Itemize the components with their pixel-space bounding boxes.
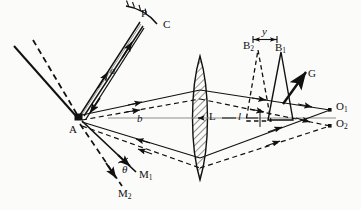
beam-splitter-b1 bbox=[268, 52, 293, 120]
rays-to-m1 bbox=[82, 121, 136, 172]
source-point-a bbox=[75, 114, 83, 121]
label-mirror-m2: M2 bbox=[118, 188, 132, 200]
label-splitter-b2: B2 bbox=[243, 40, 254, 52]
label-source-a: A bbox=[69, 124, 77, 135]
label-distance-l: l bbox=[238, 111, 241, 122]
label-mirror-m1: M1 bbox=[139, 169, 153, 181]
label-splitter-b1: B1 bbox=[275, 42, 286, 54]
label-image-o2: O2 bbox=[336, 118, 348, 130]
label-distance-a: a bbox=[110, 65, 116, 76]
label-separation-y: y bbox=[262, 26, 267, 37]
label-mirror-point-p: P bbox=[141, 8, 147, 19]
separation-y-bracket bbox=[253, 36, 277, 43]
figure-canvas: P C a b A L l B1 B2 y G O1 O2 M1 M2 θ bbox=[0, 0, 361, 210]
label-distance-b: b bbox=[137, 113, 143, 124]
image-point-o1 bbox=[328, 108, 332, 112]
incoming-rays bbox=[14, 40, 78, 116]
label-angle-theta: θ bbox=[122, 164, 127, 175]
label-image-o1: O1 bbox=[336, 101, 348, 113]
label-mirror-c: C bbox=[163, 19, 170, 30]
label-lens-l: L bbox=[209, 111, 216, 122]
grating-g-arrow bbox=[283, 72, 306, 104]
image-point-o2 bbox=[328, 124, 332, 128]
label-grating-g: G bbox=[308, 68, 316, 79]
optics-ray-diagram-svg bbox=[0, 0, 361, 210]
